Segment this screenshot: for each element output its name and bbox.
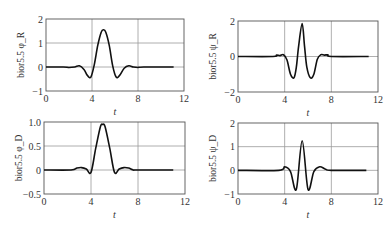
plot-frame — [238, 123, 378, 194]
y-tick-label: 1 — [230, 141, 235, 152]
plot-frame — [46, 19, 184, 91]
x-axis-label: t — [307, 107, 310, 118]
x-axis-label: t — [114, 106, 117, 117]
plot-frame — [44, 122, 185, 194]
x-axis-label: t — [307, 209, 310, 220]
y-tick-label: −2 — [224, 87, 235, 98]
x-tick-label: 0 — [42, 196, 47, 207]
y-tick-label: −0.5 — [23, 189, 41, 200]
x-tick-label: 8 — [136, 93, 141, 104]
x-tick-label: 4 — [90, 93, 95, 104]
x-tick-label: 8 — [329, 196, 334, 207]
y-tick-label: 2 — [38, 14, 43, 25]
x-axis-label: t — [113, 209, 116, 220]
wavelet-figure: 04812−1012tbior5.5 φ_R 04812−202tbior5.5… — [0, 0, 391, 231]
x-tick-label: 12 — [373, 94, 383, 105]
y-tick-label: 0 — [36, 165, 41, 176]
y-tick-label: 2 — [230, 118, 235, 129]
y-axis-label: bior5.5 φ_D — [14, 135, 24, 182]
wavelet-curve — [44, 124, 173, 173]
y-tick-label: 1 — [38, 38, 43, 49]
y-tick-label: 0 — [230, 165, 235, 176]
panel-phi-r: 04812−1012tbior5.5 φ_R — [16, 14, 189, 118]
y-tick-label: 1.0 — [29, 117, 42, 128]
x-tick-label: 8 — [136, 196, 141, 207]
y-tick-label: 0.5 — [29, 141, 42, 152]
panel-psi-r: 04812−202tbior5.5 ψ_R — [208, 16, 383, 119]
x-tick-label: 12 — [373, 196, 383, 207]
panel-phi-d: 04812−0.500.51.0tbior5.5 φ_D — [14, 117, 190, 221]
x-tick-label: 12 — [180, 196, 190, 207]
y-tick-label: −1 — [32, 86, 43, 97]
y-tick-label: 0 — [230, 51, 235, 62]
wavelet-curve — [238, 24, 369, 79]
x-tick-label: 8 — [329, 94, 334, 105]
y-axis-label: bior5.5 ψ_D — [208, 135, 218, 182]
y-tick-label: −1 — [224, 189, 235, 200]
x-tick-label: 4 — [282, 196, 287, 207]
x-tick-label: 0 — [236, 94, 241, 105]
wavelet-curve — [238, 141, 366, 190]
y-tick-label: 0 — [38, 62, 43, 73]
x-tick-label: 4 — [89, 196, 94, 207]
wavelet-curve — [46, 30, 174, 78]
x-tick-label: 0 — [236, 196, 241, 207]
x-tick-label: 4 — [282, 94, 287, 105]
y-axis-label: bior5.5 ψ_R — [208, 33, 218, 80]
y-tick-label: 2 — [230, 16, 235, 27]
panel-psi-d: 04812−1012tbior5.5 ψ_D — [208, 118, 383, 221]
x-tick-label: 0 — [44, 93, 49, 104]
x-tick-label: 12 — [179, 93, 189, 104]
y-axis-label: bior5.5 φ_R — [16, 31, 26, 78]
